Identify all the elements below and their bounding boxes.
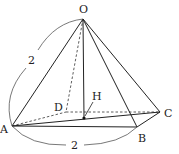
label-OA-length: 2 (28, 54, 35, 67)
label-B: B (138, 132, 146, 145)
label-AB-length: 2 (71, 139, 78, 152)
arc-AB-right (84, 127, 137, 145)
pyramid-diagram: O A B C D H 2 2 (0, 0, 179, 154)
edge-AB (12, 126, 137, 127)
hidden-edges (12, 19, 160, 126)
label-H: H (92, 90, 102, 103)
pyramid-figure: O A B C D H 2 2 (0, 0, 179, 154)
label-A: A (0, 123, 9, 136)
visible-edges (12, 19, 160, 127)
edge-OD (66, 19, 83, 112)
label-C: C (164, 107, 172, 120)
label-D: D (54, 101, 63, 114)
arc-OA-upper (38, 19, 83, 50)
H-leader-line (85, 102, 93, 116)
label-O: O (79, 3, 88, 16)
point-H (82, 116, 85, 119)
height-OH (83, 19, 84, 118)
edge-OB (83, 19, 137, 127)
arc-AB-left (12, 126, 66, 145)
